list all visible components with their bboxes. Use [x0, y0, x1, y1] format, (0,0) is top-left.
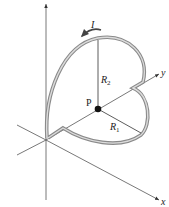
current-label: I	[90, 19, 95, 30]
x-axis	[46, 140, 159, 200]
y-axis-back	[17, 140, 46, 155]
x-axis-back	[17, 125, 46, 140]
point-label: P	[86, 97, 92, 108]
current-direction-arrow	[82, 29, 101, 36]
point-p	[95, 106, 102, 113]
r2-subscript: 2	[107, 79, 111, 87]
r1-main: R	[109, 121, 116, 132]
r1-subscript: 1	[116, 126, 120, 134]
r1-label: R1	[109, 121, 120, 134]
x-axis-label: x	[160, 196, 166, 207]
current-loop-diagram: I P R2 R1 y x	[0, 0, 169, 207]
r2-label: R2	[100, 74, 111, 87]
y-axis-label: y	[160, 67, 166, 78]
current-loop	[47, 37, 148, 143]
r2-main: R	[100, 74, 107, 85]
